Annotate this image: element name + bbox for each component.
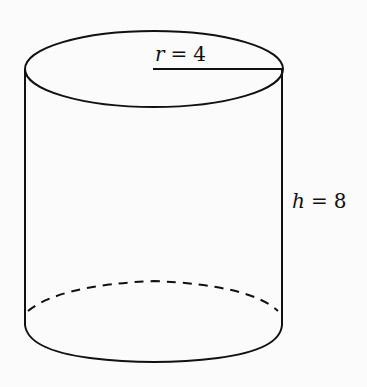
bottom-back-arc-dashed [28,281,278,311]
height-label: h=8 [292,189,346,213]
bottom-front-arc [25,325,282,362]
radius-label: r=4 [155,42,206,66]
cylinder-diagram: r=4 h=8 [0,0,367,387]
